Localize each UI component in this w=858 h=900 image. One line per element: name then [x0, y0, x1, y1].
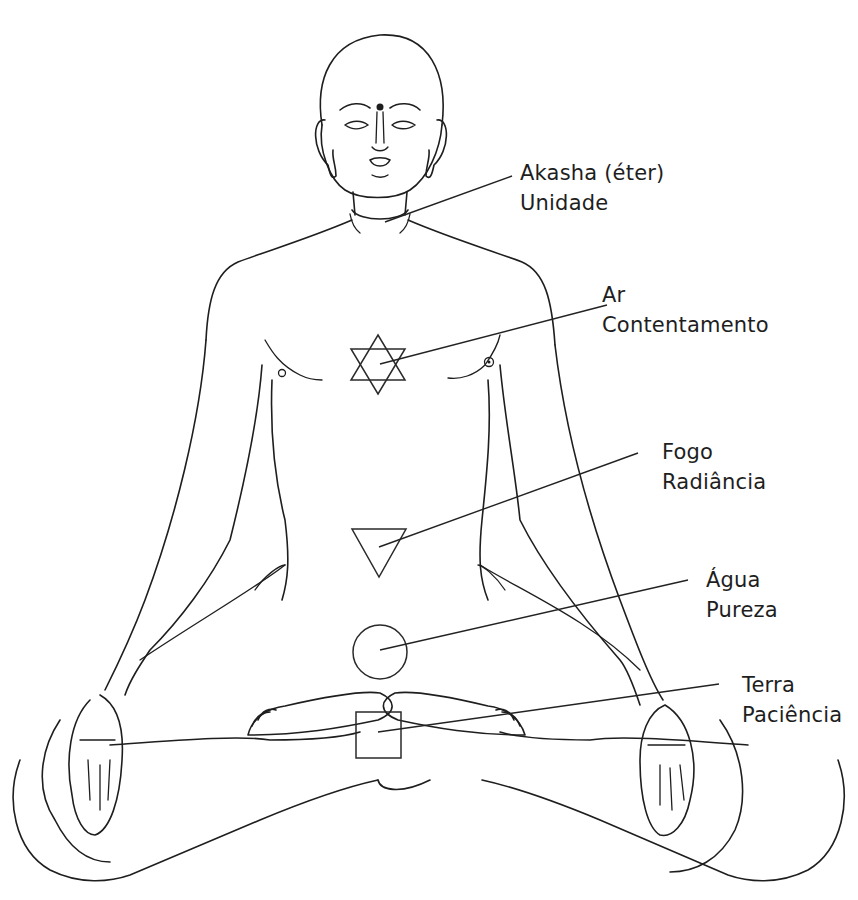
label-fogo: Fogo Radiância: [662, 437, 766, 497]
element-quality: Paciência: [742, 700, 842, 730]
head: [316, 35, 447, 198]
element-quality: Radiância: [662, 467, 766, 497]
element-name: Terra: [742, 670, 842, 700]
element-name: Akasha (éter): [520, 158, 665, 188]
label-agua: Água Pureza: [706, 565, 778, 625]
bindi-dot-icon: [377, 104, 384, 111]
circle-icon: [353, 625, 407, 679]
element-name: Fogo: [662, 437, 766, 467]
hexagram-icon: [351, 335, 405, 394]
chakra-elements-diagram: Akasha (éter) Unidade Ar Contentamento F…: [0, 0, 858, 900]
right-hand: [640, 705, 743, 872]
element-quality: Unidade: [520, 188, 665, 218]
element-name: Ar: [602, 280, 769, 310]
left-hand: [42, 695, 122, 862]
element-quality: Pureza: [706, 595, 778, 625]
label-ar: Ar Contentamento: [602, 280, 769, 340]
label-terra: Terra Paciência: [742, 670, 842, 730]
label-akasha: Akasha (éter) Unidade: [520, 158, 665, 218]
downward-triangle-icon: [352, 529, 406, 577]
element-quality: Contentamento: [602, 310, 769, 340]
element-name: Água: [706, 565, 778, 595]
torso: [105, 220, 663, 705]
